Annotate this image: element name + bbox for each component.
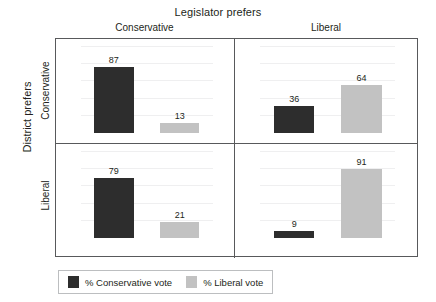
bar-group: 36 64 bbox=[260, 47, 395, 133]
bar-item-liberal: 21 bbox=[160, 152, 200, 238]
bar-liberal-vote bbox=[160, 222, 200, 238]
bar-item-conservative: 36 bbox=[274, 47, 314, 133]
bar-conservative-vote bbox=[274, 231, 314, 238]
plot-area: 36 64 bbox=[260, 47, 395, 133]
panel-frame: 87 13 36 bbox=[55, 38, 418, 257]
bar-item-conservative: 9 bbox=[274, 152, 314, 238]
bar-conservative-vote bbox=[94, 67, 134, 133]
bar-liberal-vote bbox=[160, 123, 200, 133]
legend-label: % Conservative vote bbox=[85, 277, 172, 288]
panel-liberal-conservative: 79 21 bbox=[56, 144, 234, 256]
bar-item-conservative: 79 bbox=[94, 152, 134, 238]
row-header-conservative: Conservative bbox=[40, 39, 51, 143]
bar-value-label: 79 bbox=[109, 166, 119, 177]
bar-group: 79 21 bbox=[81, 152, 213, 238]
column-group-title: Legislator prefers bbox=[0, 6, 436, 18]
bar-group: 87 13 bbox=[81, 47, 213, 133]
legend-swatch-icon bbox=[186, 276, 197, 288]
column-header-conservative: Conservative bbox=[55, 22, 234, 33]
bar-value-label: 21 bbox=[175, 210, 185, 221]
plot-area: 87 13 bbox=[81, 47, 213, 133]
bar-liberal-vote bbox=[341, 169, 381, 238]
legend-swatch-icon bbox=[68, 276, 79, 288]
bar-value-label: 13 bbox=[175, 111, 185, 122]
chart-legend: % Conservative vote % Liberal vote bbox=[58, 270, 273, 294]
bar-value-label: 64 bbox=[356, 73, 366, 84]
bar-value-label: 87 bbox=[109, 55, 119, 66]
bar-liberal-vote bbox=[341, 85, 381, 133]
bar-item-conservative: 87 bbox=[94, 47, 134, 133]
column-header-liberal: Liberal bbox=[234, 22, 418, 33]
legend-item-liberal-vote: % Liberal vote bbox=[186, 276, 263, 288]
plot-area: 79 21 bbox=[81, 152, 213, 238]
grouped-bar-panel-chart: Legislator prefers Conservative Liberal … bbox=[0, 0, 436, 302]
row-group-title: District prefers bbox=[21, 27, 33, 207]
bar-value-label: 36 bbox=[289, 94, 299, 105]
bar-value-label: 91 bbox=[356, 157, 366, 168]
bar-conservative-vote bbox=[274, 106, 314, 133]
bar-item-liberal: 13 bbox=[160, 47, 200, 133]
panel-conservative-conservative: 87 13 bbox=[56, 39, 234, 143]
bar-group: 9 91 bbox=[260, 152, 395, 238]
bar-item-liberal: 91 bbox=[341, 152, 381, 238]
bar-value-label: 9 bbox=[292, 219, 297, 230]
row-header-liberal: Liberal bbox=[40, 144, 51, 248]
legend-item-conservative-vote: % Conservative vote bbox=[68, 276, 172, 288]
legend-label: % Liberal vote bbox=[203, 277, 263, 288]
bar-conservative-vote bbox=[94, 178, 134, 238]
plot-area: 9 91 bbox=[260, 152, 395, 238]
panel-conservative-liberal: 36 64 bbox=[235, 39, 417, 143]
panel-liberal-liberal: 9 91 bbox=[235, 144, 417, 256]
bar-item-liberal: 64 bbox=[341, 47, 381, 133]
